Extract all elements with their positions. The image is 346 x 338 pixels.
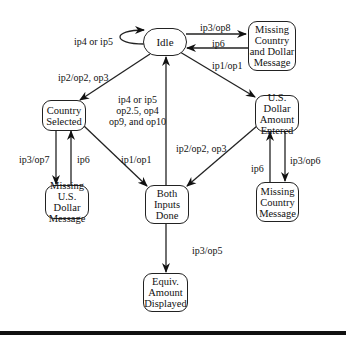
label-country-to-missing-usd: ip3/op7 — [19, 154, 50, 165]
label-missing-country-to-usd: ip6 — [251, 163, 264, 174]
state-usd-entered: U.S. Dollar Amount Entered — [255, 95, 299, 132]
state-missing-country-dollar: Missing Country and Dollar Message — [248, 21, 296, 71]
label-usd-to-missing-country: ip3/op6 — [290, 155, 321, 166]
edge-usd-to-both — [187, 126, 257, 186]
edge-idle-to-usd — [180, 52, 255, 97]
label-idle-to-missing-cd: ip3/op8 — [200, 22, 231, 33]
label-missing-cd-to-idle: ip6 — [212, 38, 225, 49]
state-equiv-displayed-label: Equiv. Amount Displayed — [144, 276, 187, 309]
state-missing-country-label: Missing Country Message — [259, 186, 296, 219]
state-missing-country-dollar-label: Missing Country and Dollar Message — [250, 24, 295, 68]
label-both-to-equiv: ip3/op5 — [192, 245, 223, 256]
state-idle: Idle — [143, 28, 187, 56]
label-idle-to-usd: ip1/op1 — [212, 60, 243, 71]
label-idle-self: ip4 or ip5 — [74, 36, 113, 47]
state-equiv-displayed: Equiv. Amount Displayed — [143, 273, 188, 312]
label-usd-to-both: ip2/op2, op3 — [176, 143, 227, 154]
label-both-to-idle: ip4 or ip5 op2.5, op4 op9, and op10 — [109, 94, 166, 127]
state-missing-country: Missing Country Message — [256, 182, 299, 222]
state-missing-usd: Missing U.S. Dollar Message — [45, 185, 89, 219]
edge-idle-self — [120, 30, 144, 44]
label-idle-to-country: ip2/op2, op3 — [58, 72, 109, 83]
state-both-inputs-done-label: Both Inputs Done — [154, 188, 180, 221]
state-country-selected-label: Country Selected — [46, 105, 82, 127]
bottom-rule — [0, 331, 346, 335]
state-country-selected: Country Selected — [42, 100, 86, 131]
label-missing-usd-to-country: ip6 — [77, 154, 90, 165]
state-usd-entered-label: U.S. Dollar Amount Entered — [256, 92, 298, 136]
label-country-to-both: ip1/op1 — [121, 154, 152, 165]
state-both-inputs-done: Both Inputs Done — [145, 185, 189, 224]
state-idle-label: Idle — [156, 37, 173, 48]
state-missing-usd-label: Missing U.S. Dollar Message — [46, 180, 88, 224]
